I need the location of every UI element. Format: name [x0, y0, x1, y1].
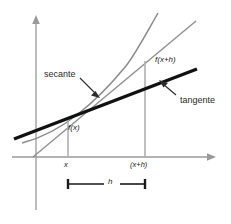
x-tick-label: x [64, 161, 68, 169]
secant-line [33, 21, 196, 157]
x-axis-arrowhead-icon [207, 153, 216, 160]
y-axis [32, 15, 40, 210]
f-x-plus-h-label: f(x+h) [155, 56, 176, 64]
f-x-label: f(x) [68, 124, 80, 132]
x-axis [12, 153, 216, 160]
function-curve [22, 13, 158, 143]
calculus-secant-tangent-diagram: secante tangente f(x+h) f(x) x (x+h) h [0, 0, 231, 224]
x-plus-h-tick-label: (x+h) [130, 161, 147, 169]
secante-leader-arrow-icon [80, 78, 100, 98]
tangente-leader-arrow-icon [159, 80, 176, 95]
secante-label: secante [44, 70, 76, 79]
y-axis-arrowhead-icon [32, 15, 40, 24]
diagram-canvas [0, 0, 231, 224]
tangente-label: tangente [180, 96, 215, 105]
tangent-line [14, 69, 197, 139]
h-measure-label: h [108, 178, 112, 186]
h-measure-bar [68, 179, 145, 189]
